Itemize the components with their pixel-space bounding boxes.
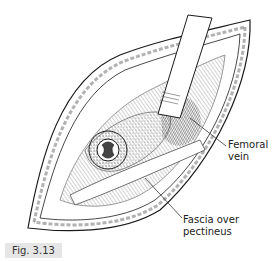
fascia-label: Fascia over pectineus	[183, 214, 239, 238]
femoral-vein-label: Femoral vein	[228, 139, 268, 163]
vessel-cross-section	[89, 131, 127, 169]
figure-caption: Fig. 3.13	[5, 243, 62, 258]
fascia-label-line2: pectineus	[183, 226, 239, 238]
femoral-vein-label-line1: Femoral	[228, 139, 268, 151]
fascia-label-line1: Fascia over	[183, 214, 239, 226]
femoral-vein-label-line2: vein	[228, 151, 268, 163]
